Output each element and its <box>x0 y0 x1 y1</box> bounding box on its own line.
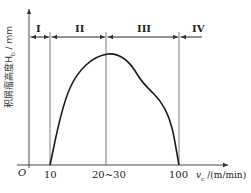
y-axis-unit: / mm <box>4 26 14 52</box>
x-axis-unit: /(m/min) <box>204 170 246 180</box>
y-axis-label: 积屑瘤高度Hb / mm <box>2 22 16 112</box>
y-axis-sub: b <box>9 52 16 56</box>
x-axis-label: vc /(m/min) <box>196 170 246 184</box>
origin-label: O <box>18 168 26 178</box>
region-label-2: II <box>75 24 84 34</box>
x-tick-10: 10 <box>44 170 57 180</box>
region-label-1: I <box>36 24 41 34</box>
y-axis-var: 积屑瘤高度H <box>4 56 14 108</box>
region-label-4: IV <box>192 24 204 34</box>
data-curve <box>50 54 179 165</box>
region-label-3: III <box>137 24 151 34</box>
x-tick-20-30: 20~30 <box>92 170 126 180</box>
x-tick-100: 100 <box>169 170 188 180</box>
